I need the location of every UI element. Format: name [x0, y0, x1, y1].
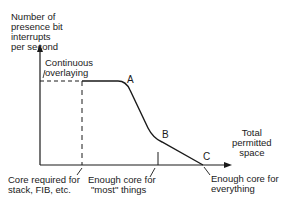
point-a-label: A — [127, 75, 134, 85]
enough-everything-label: Enough core for everything — [211, 174, 279, 194]
point-c-label: C — [203, 152, 210, 162]
interrupt-curve — [82, 81, 203, 165]
point-b-label: B — [162, 130, 169, 140]
enough-everything-leader — [204, 167, 210, 175]
enough-most-label: Enough core for "most" things — [88, 175, 156, 195]
continuous-overlaying-label: Continuous overlaying — [45, 58, 93, 78]
x-axis-label: Total permitted space — [232, 128, 272, 158]
x-axis-arrow-icon — [224, 162, 232, 168]
core-required-label: Core required for stack, FIB, etc. — [8, 175, 80, 195]
y-axis-label: Number of presence bit interrupts per se… — [11, 12, 63, 52]
